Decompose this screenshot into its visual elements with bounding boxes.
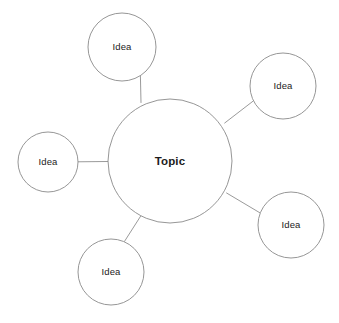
node-label-topic: Topic: [155, 155, 186, 167]
node-label-idea-top-right: Idea: [274, 80, 294, 91]
connector-topic-idea-top-right: [225, 101, 253, 123]
connector-topic-idea-bottom-left: [125, 216, 141, 242]
node-label-idea-top: Idea: [113, 41, 133, 52]
connector-topic-idea-top: [140, 76, 141, 103]
connector-topic-idea-bottom-right: [227, 193, 260, 213]
node-label-idea-bottom-left: Idea: [102, 266, 122, 277]
mind-map-canvas: Idea Idea Idea Idea Idea Topic: [0, 0, 339, 323]
mind-map-diagram: Idea Idea Idea Idea Idea Topic: [0, 0, 339, 323]
node-label-idea-left: Idea: [39, 156, 59, 167]
node-label-idea-bottom-right: Idea: [282, 219, 302, 230]
